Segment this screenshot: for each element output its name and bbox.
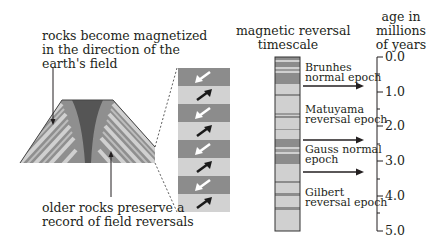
axis-tick-1: 1.0 bbox=[385, 85, 405, 98]
caption-top-line3: earth's field bbox=[42, 57, 117, 70]
timescale-title-line2: timescale bbox=[236, 38, 340, 51]
axis-title-line2: millions bbox=[366, 24, 436, 37]
epoch-brunhes-line2: normal epoch bbox=[305, 72, 381, 84]
caption-top-line2: in the direction of the bbox=[42, 43, 180, 56]
axis-tick-0: 0.0 bbox=[385, 50, 405, 63]
axis-tick-4: 4.0 bbox=[385, 189, 405, 202]
caption-top-line1: rocks become magnetized bbox=[42, 29, 207, 42]
axis-tick-3: 3.0 bbox=[385, 154, 405, 167]
magnetized-rock-strip bbox=[178, 68, 230, 212]
caption-bottom-line1: older rocks preserve a bbox=[42, 201, 184, 214]
timescale-title-line1: magnetic reversal bbox=[236, 24, 340, 37]
caption-bottom-line2: record of field reversals bbox=[42, 215, 194, 228]
timescale-column bbox=[275, 57, 300, 231]
axis-title-line1: age in bbox=[366, 10, 436, 23]
epoch-gauss-line2: epoch bbox=[305, 154, 338, 166]
volcano bbox=[0, 90, 170, 190]
epoch-gilbert-line2: reversal epoch bbox=[305, 197, 387, 209]
epoch-matuyama-line2: reversal epoch bbox=[305, 114, 387, 126]
axis-tick-5: 5.0 bbox=[385, 224, 405, 237]
axis-tick-2: 2.0 bbox=[385, 119, 405, 132]
